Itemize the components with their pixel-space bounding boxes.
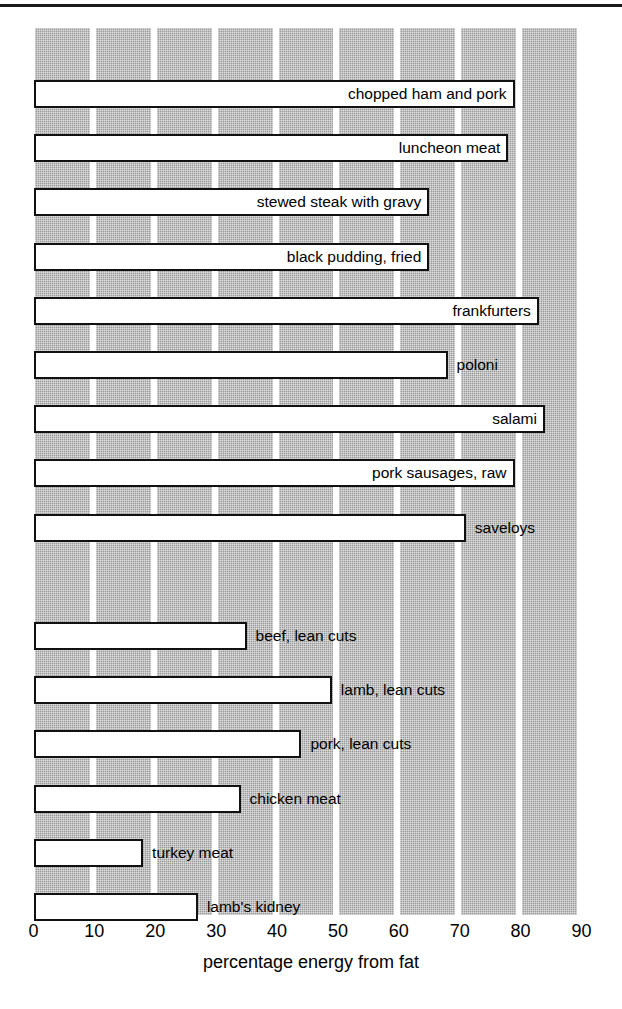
bar-label: pork sausages, raw	[372, 459, 506, 487]
bar-label: black pudding, fried	[287, 243, 421, 271]
bar-label: luncheon meat	[399, 134, 501, 162]
bar-row: chicken meat	[34, 785, 241, 813]
plot-area: chopped ham and porkluncheon meatstewed …	[34, 28, 582, 915]
bar	[34, 893, 198, 921]
x-axis-ticks: 0102030405060708090	[34, 918, 582, 944]
bar-label: pork, lean cuts	[310, 730, 411, 758]
bar-row: stewed steak with gravy	[34, 188, 430, 216]
bar	[34, 839, 144, 867]
bar-label: stewed steak with gravy	[257, 188, 422, 216]
bar-label: chopped ham and pork	[348, 80, 507, 108]
bar-row: luncheon meat	[34, 134, 509, 162]
bar-label: saveloys	[475, 514, 535, 542]
bar-label: frankfurters	[452, 297, 530, 325]
x-tick-label: 50	[328, 918, 348, 944]
x-tick-label: 90	[571, 918, 591, 944]
x-tick-label: 80	[511, 918, 531, 944]
x-axis-title: percentage energy from fat	[0, 952, 622, 973]
bar	[34, 351, 448, 379]
x-tick-label: 40	[267, 918, 287, 944]
x-tick-label: 60	[389, 918, 409, 944]
bar-label: lamb's kidney	[207, 893, 300, 921]
x-tick-label: 20	[145, 918, 165, 944]
bar-row: saveloys	[34, 514, 466, 542]
bar-label: turkey meat	[152, 839, 233, 867]
bar-label: salami	[492, 405, 537, 433]
bar	[34, 676, 332, 704]
bar-chart-figure: chopped ham and porkluncheon meatstewed …	[0, 0, 622, 1009]
bar	[34, 622, 247, 650]
bar-row: salami	[34, 405, 545, 433]
x-tick-label: 0	[28, 918, 38, 944]
bar-label: lamb, lean cuts	[341, 676, 445, 704]
bar	[34, 405, 545, 433]
bar-row: chopped ham and pork	[34, 80, 515, 108]
bar-row: pork sausages, raw	[34, 459, 515, 487]
bar	[34, 730, 302, 758]
x-tick-label: 30	[206, 918, 226, 944]
bar-label: beef, lean cuts	[256, 622, 357, 650]
bar-row: pork, lean cuts	[34, 730, 302, 758]
x-tick-label: 70	[450, 918, 470, 944]
bar-row: turkey meat	[34, 839, 144, 867]
bar-label: poloni	[457, 351, 498, 379]
bar-row: poloni	[34, 351, 448, 379]
bar-row: lamb, lean cuts	[34, 676, 332, 704]
bar	[34, 785, 241, 813]
bar	[34, 514, 466, 542]
bar-row: beef, lean cuts	[34, 622, 247, 650]
x-tick-label: 10	[84, 918, 104, 944]
bar-row: black pudding, fried	[34, 243, 430, 271]
bar-series: chopped ham and porkluncheon meatstewed …	[34, 28, 582, 915]
bar-row: lamb's kidney	[34, 893, 198, 921]
bar-label: chicken meat	[250, 785, 341, 813]
bar-row: frankfurters	[34, 297, 539, 325]
